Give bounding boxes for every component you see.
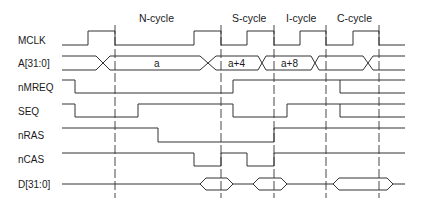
waveform-seq [62,104,405,117]
waveform-nmreq [62,80,405,93]
signal-label-nras: nRAS [18,130,44,141]
address-value-a4: a+4 [228,58,245,69]
cycle-label-i: I-cycle [286,12,316,24]
address-value-a8: a+8 [281,58,298,69]
signal-label-data: D[31:0] [18,179,50,190]
waveform-nras [62,128,405,142]
waveform-mclk [62,31,405,45]
waveform-data [62,178,405,190]
cycle-label-n: N-cycle [139,12,174,24]
signal-label-nmreq: nMREQ [18,82,54,93]
signal-label-seq: SEQ [18,106,39,117]
cycle-boundaries [115,25,379,198]
signal-label-address: A[31:0] [18,58,50,69]
signal-label-ncas: nCAS [18,154,44,165]
cycle-label-s: S-cycle [232,12,267,24]
cycle-label-c: C-cycle [337,12,372,24]
timing-diagram: N-cycle S-cycle I-cycle C-cycle MCLK A[3… [0,0,423,213]
signal-label-mclk: MCLK [18,35,46,46]
address-value-a: a [154,58,160,69]
waveform-ncas [62,153,405,166]
